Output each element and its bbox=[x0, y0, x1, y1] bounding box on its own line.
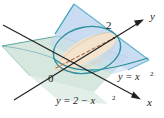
tick-label-two: 2 bbox=[106, 19, 112, 31]
calculus-3d-figure: y x 0 2 y = x 2 y = 2 − x 2 bbox=[0, 0, 164, 118]
figure-container: y x 0 2 y = x 2 y = 2 − x 2 bbox=[0, 0, 164, 118]
tick-marker-two bbox=[113, 37, 115, 39]
curve-label-lower-exponent: 2 bbox=[112, 94, 116, 102]
x-axis-label: x bbox=[146, 96, 152, 108]
curve-label-upper-exponent: 2 bbox=[150, 70, 154, 78]
y-axis-label: y bbox=[149, 10, 155, 22]
curve-label-lower-text: y = 2 − x bbox=[55, 95, 96, 106]
origin-label: 0 bbox=[48, 72, 54, 84]
curve-label-upper-text: y = x bbox=[117, 71, 140, 82]
